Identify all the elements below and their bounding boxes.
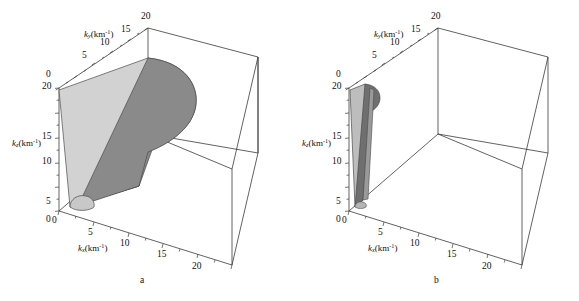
box-edge-back-bottom-right-b xyxy=(438,134,548,153)
panel-a-z-unit-close: ) xyxy=(38,138,41,148)
panel-b-x-tick-20: 20 xyxy=(482,262,492,272)
panel-b-x-unit-open: (km xyxy=(375,243,390,253)
panel-a-y-tick-15: 15 xyxy=(121,25,131,35)
panel-a-x-tick-20: 20 xyxy=(192,262,202,272)
panel-b-y-tick-15: 15 xyxy=(411,25,421,35)
panel-a-y-unit-open: (km xyxy=(91,29,106,39)
panel-a-z-tick-10: 10 xyxy=(42,157,52,167)
panel-a-x-tick-15: 15 xyxy=(157,250,167,260)
shaded-region-b xyxy=(350,84,380,209)
ticks-x-axis-b xyxy=(348,211,522,269)
panel-a: 20 15 10 5 0 ky(km-1) 20 15 10 5 0 kz(km… xyxy=(0,0,289,301)
panel-a-z-tick-0: 0 xyxy=(46,215,51,225)
panel-b-y-tick-5: 5 xyxy=(372,51,377,61)
panel-a-y-unit-close: ) xyxy=(110,29,113,39)
panel-b-x-tick-15: 15 xyxy=(447,250,457,260)
panel-b-y-tick-20: 20 xyxy=(431,12,441,22)
panel-a-z-tick-15: 15 xyxy=(42,132,52,142)
figure-3d-wavenumber-panels: 20 15 10 5 0 ky(km-1) 20 15 10 5 0 kz(km… xyxy=(0,0,579,301)
panel-b-y-axis-label: ky(km-1) xyxy=(374,29,403,39)
panel-b-z-tick-20: 20 xyxy=(332,82,342,92)
panel-a-y-tick-10: 10 xyxy=(100,38,110,48)
panel-b-x-tick-5: 5 xyxy=(378,228,383,238)
panel-b-z-axis-label: kz(km-1) xyxy=(302,138,331,148)
ticks-x-axis-a xyxy=(58,211,232,269)
panel-b-z-unit-close: ) xyxy=(328,138,331,148)
panel-b-x-tick-0: 0 xyxy=(342,216,347,226)
panel-b-z-tick-15: 15 xyxy=(332,132,342,142)
panel-a-x-tick-10: 10 xyxy=(120,239,130,249)
ticks-z-axis-a xyxy=(55,88,59,211)
box-edge-front-top-b xyxy=(438,134,522,169)
panel-b-y-tick-0: 0 xyxy=(336,70,341,80)
panel-a-y-tick-5: 5 xyxy=(82,51,87,61)
panel-a-caption: a xyxy=(140,276,144,286)
panel-a-x-unit-close: ) xyxy=(104,243,107,253)
panel-a-z-axis-label: kz(km-1) xyxy=(12,138,41,148)
panel-a-z-tick-5: 5 xyxy=(46,197,51,207)
panel-a-x-unit-open: (km xyxy=(85,243,100,253)
panel-b-x-unit-close: ) xyxy=(394,243,397,253)
panel-a-x-tick-5: 5 xyxy=(88,228,93,238)
panel-a-y-axis-label: ky(km-1) xyxy=(84,29,113,39)
panel-b-x-axis-label: kx(km-1) xyxy=(368,243,397,253)
panel-b-z-tick-10: 10 xyxy=(332,157,342,167)
box-edge-front-bottom xyxy=(59,211,232,265)
panel-b-x-tick-10: 10 xyxy=(410,239,420,249)
panel-b: 20 15 10 5 0 ky(km-1) 20 15 10 5 0 kz(km… xyxy=(290,0,579,301)
panel-b-y-unit-open: (km xyxy=(381,29,396,39)
box-edge-right-lower-diag-b xyxy=(522,153,548,265)
panel-a-y-tick-20: 20 xyxy=(141,12,151,22)
panel-a-z-unit-open: (km xyxy=(18,138,33,148)
panel-a-plot xyxy=(0,0,289,301)
box-edge-right-lower-diag xyxy=(232,153,258,265)
box-edge-back-top-right xyxy=(148,28,258,57)
panel-b-plot xyxy=(290,0,579,301)
panel-a-y-tick-0: 0 xyxy=(46,70,51,80)
box-edge-back-top-right-b xyxy=(438,28,548,57)
panel-b-z-tick-5: 5 xyxy=(336,197,341,207)
ticks-z-axis-b xyxy=(345,88,349,211)
panel-a-z-tick-20: 20 xyxy=(42,82,52,92)
panel-b-caption: b xyxy=(434,276,439,286)
box-edge-front-bottom-b xyxy=(349,211,522,265)
panel-b-z-unit-open: (km xyxy=(308,138,323,148)
panel-b-z-tick-0: 0 xyxy=(336,215,341,225)
panel-a-x-axis-label: kx(km-1) xyxy=(78,243,107,253)
panel-a-x-tick-0: 0 xyxy=(52,216,57,226)
shaded-region-a xyxy=(59,58,196,210)
panel-b-y-unit-close: ) xyxy=(400,29,403,39)
panel-b-y-tick-10: 10 xyxy=(390,38,400,48)
